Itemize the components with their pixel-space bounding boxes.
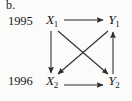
node-x2: X2 <box>46 74 58 92</box>
node-y1-subscript: 1 <box>115 19 120 29</box>
node-y1: Y1 <box>108 13 120 31</box>
node-x1-var: X <box>46 12 54 27</box>
cross-lagged-panel-figure: b. 1995 1996 X1 Y1 X2 Y2 <box>0 0 132 101</box>
node-x1: X1 <box>46 13 58 31</box>
node-x2-subscript: 2 <box>54 80 59 90</box>
node-x2-var: X <box>46 73 54 88</box>
node-x1-subscript: 1 <box>54 19 59 29</box>
node-y2-subscript: 2 <box>115 80 120 90</box>
node-y2: Y2 <box>108 74 120 92</box>
